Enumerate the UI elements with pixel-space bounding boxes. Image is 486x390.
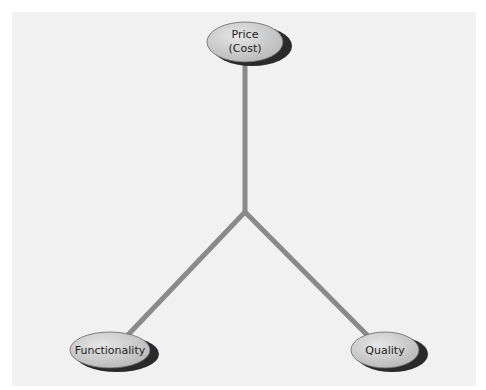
node-price-label-2: (Cost) <box>228 42 261 55</box>
node-functionality-label: Functionality <box>75 344 146 357</box>
node-quality-label: Quality <box>365 344 405 357</box>
node-functionality: Functionality <box>70 332 159 372</box>
node-price-label-1: Price <box>232 28 259 41</box>
connector-lines <box>125 60 370 338</box>
node-quality: Quality <box>351 332 428 372</box>
tradeoff-diagram: Price (Cost) Functionality Quality <box>0 0 486 390</box>
node-price: Price (Cost) <box>207 22 292 66</box>
